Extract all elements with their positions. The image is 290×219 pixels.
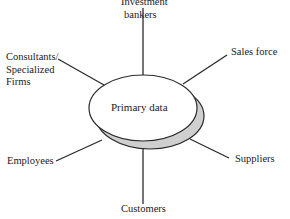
label-sales-force: Sales force — [231, 46, 277, 59]
label-employees: Employees — [7, 155, 54, 168]
center-label: Primary data — [111, 101, 168, 113]
label-customers: Customers — [121, 203, 166, 216]
label-investment-bankers: Investment bankers — [121, 0, 168, 21]
connector-consultants — [58, 59, 104, 85]
connector-employees — [56, 140, 102, 161]
primary-data-diagram: Primary data Investment bankers Sales fo… — [0, 0, 290, 219]
label-suppliers: Suppliers — [235, 153, 275, 166]
connector-suppliers — [190, 139, 229, 158]
label-consultants: Consultants/ Specialized Firms — [6, 51, 59, 89]
connector-sales-force — [183, 55, 227, 84]
